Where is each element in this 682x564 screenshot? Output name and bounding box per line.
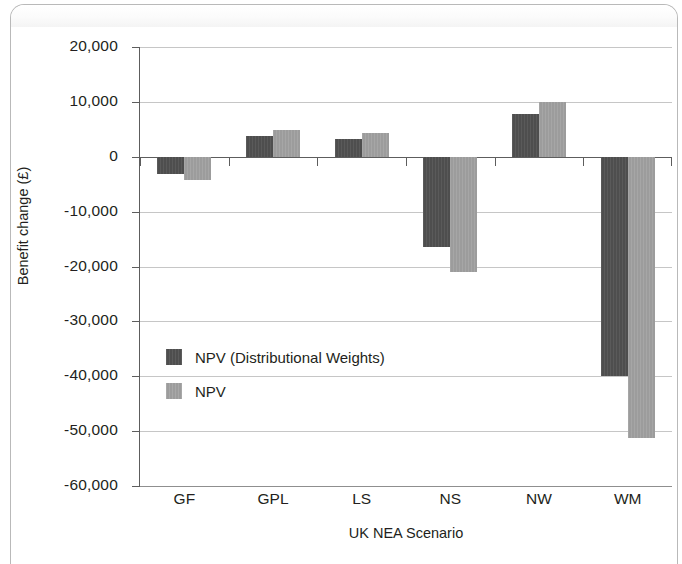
y-tick-label: -20,000 — [0, 257, 118, 275]
plot-area: GFGPLLSNSNWWM UK NEA Scenario NPV (Distr… — [140, 47, 672, 486]
bar — [335, 139, 362, 157]
gridline — [140, 212, 672, 213]
y-tick-mark — [132, 212, 140, 213]
x-tick-label: LS — [317, 490, 407, 508]
y-tick-label: 10,000 — [0, 92, 118, 110]
gridline — [140, 321, 672, 322]
gridline — [140, 47, 672, 48]
y-tick-mark — [132, 486, 140, 487]
bar — [157, 157, 184, 174]
bar — [601, 157, 628, 377]
y-tick-label: 0 — [0, 147, 118, 165]
legend-item: NPV (Distributional Weights) — [166, 340, 385, 374]
bar — [539, 102, 566, 157]
x-tick-mark — [406, 157, 407, 166]
y-tick-mark — [132, 431, 140, 432]
bar — [423, 157, 450, 248]
gridline — [140, 431, 672, 432]
y-tick-mark — [132, 267, 140, 268]
x-tick-mark — [671, 157, 672, 166]
y-tick-label: -60,000 — [0, 476, 118, 494]
x-tick-label: NS — [405, 490, 495, 508]
gridline — [140, 267, 672, 268]
legend-label: NPV — [195, 383, 226, 400]
x-tick-label: NW — [494, 490, 584, 508]
bar — [273, 130, 300, 156]
bar — [512, 114, 539, 156]
y-tick-mark — [132, 157, 140, 158]
chart-legend: NPV (Distributional Weights) NPV — [166, 340, 385, 408]
y-tick-label: -50,000 — [0, 421, 118, 439]
bar — [246, 136, 273, 156]
x-tick-mark — [495, 157, 496, 166]
legend-swatch-icon — [166, 383, 182, 399]
legend-label: NPV (Distributional Weights) — [195, 349, 385, 366]
bar — [628, 157, 655, 438]
y-tick-label: 20,000 — [0, 37, 118, 55]
gridline — [140, 486, 672, 487]
bar — [184, 157, 211, 180]
y-tick-label: -30,000 — [0, 311, 118, 329]
legend-item: NPV — [166, 374, 385, 408]
legend-swatch-icon — [166, 349, 182, 365]
y-tick-mark — [132, 321, 140, 322]
x-tick-label: GF — [139, 490, 229, 508]
y-tick-label: -40,000 — [0, 366, 118, 384]
y-tick-mark — [132, 102, 140, 103]
bar — [362, 133, 389, 157]
x-tick-label: GPL — [228, 490, 318, 508]
x-tick-label: WM — [583, 490, 673, 508]
y-tick-mark — [132, 47, 140, 48]
bar — [450, 157, 477, 272]
x-tick-mark — [140, 157, 141, 166]
gridline — [140, 102, 672, 103]
y-axis-title: Benefit change (£) — [15, 111, 31, 341]
x-axis-title: UK NEA Scenario — [140, 525, 672, 541]
y-tick-mark — [132, 376, 140, 377]
x-tick-mark — [317, 157, 318, 166]
x-tick-mark — [583, 157, 584, 166]
y-tick-label: -10,000 — [0, 202, 118, 220]
x-tick-mark — [229, 157, 230, 166]
